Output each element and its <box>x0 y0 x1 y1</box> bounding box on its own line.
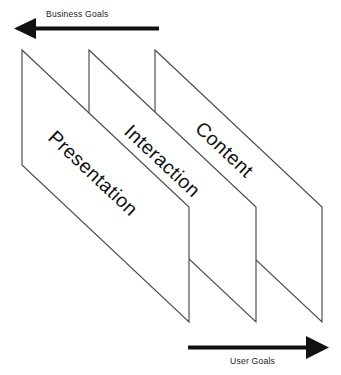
business-goals-arrow <box>14 18 159 39</box>
business-goals-label: Business Goals <box>46 9 109 19</box>
layered-architecture-diagram: Business Goals Presentation Interaction … <box>0 0 341 375</box>
user-goals-arrowhead-icon <box>306 336 329 359</box>
business-goals-arrowhead-icon <box>14 18 36 39</box>
diagram-canvas: Business Goals Presentation Interaction … <box>0 0 341 375</box>
user-goals-label: User Goals <box>230 356 275 366</box>
